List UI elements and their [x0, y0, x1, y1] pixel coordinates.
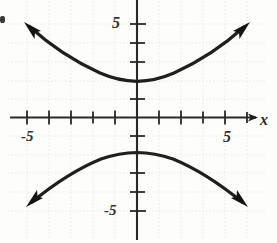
scan-speck [0, 16, 5, 23]
y-axis-tick-label-negative-5: -5 [104, 203, 117, 218]
x-axis-name-label: x [260, 112, 268, 128]
upper-left-arrowhead [24, 22, 41, 39]
upper-right-arrowhead [233, 22, 250, 39]
lower-right-arrowhead [231, 190, 248, 207]
x-axis-tick-label-negative-5: -5 [21, 129, 34, 144]
x-axis-tick-label-5: 5 [223, 129, 231, 145]
y-axis-tick-label-5: 5 [112, 15, 120, 31]
graph-screenshot: 5 -5 -5 5 x [0, 0, 277, 243]
lower-left-arrowhead [26, 190, 43, 207]
x-axis [10, 114, 258, 122]
hyperbola-plot [0, 0, 277, 243]
